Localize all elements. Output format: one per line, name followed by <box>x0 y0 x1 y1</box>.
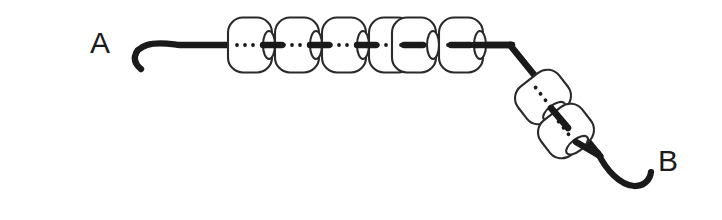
bead-string-diagram: A B <box>0 0 722 220</box>
bead-dot <box>337 43 341 47</box>
bead-hole-icon <box>427 31 439 59</box>
endpoint-label-a: A <box>90 26 110 59</box>
endpoint-label-b: B <box>658 144 678 177</box>
bead-dot <box>384 43 388 47</box>
bead-dot <box>243 43 247 47</box>
bead-dot <box>298 43 302 47</box>
bead-dot <box>290 43 294 47</box>
bead-dot <box>345 43 349 47</box>
diagram-canvas: A B <box>0 0 722 220</box>
bead-dot <box>235 43 239 47</box>
bead-dot <box>251 43 255 47</box>
